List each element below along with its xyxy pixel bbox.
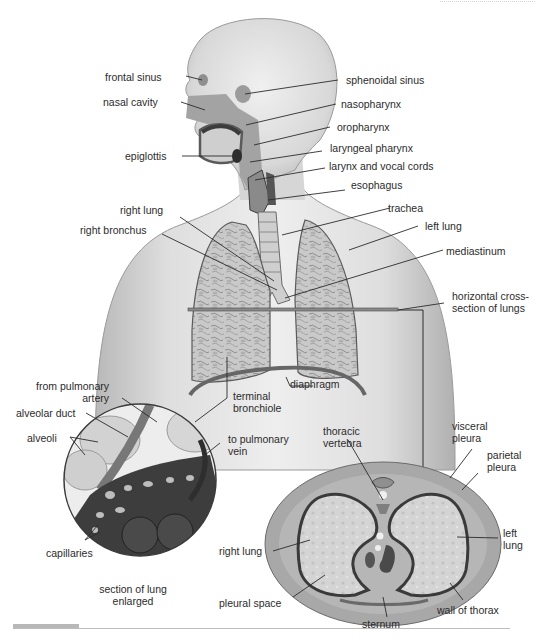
label-parietal-pleura-1: parietal xyxy=(487,449,521,461)
label-trachea: trachea xyxy=(388,202,423,214)
label-nasal-cavity: nasal cavity xyxy=(103,96,158,108)
label-wall-of-thorax: wall of thorax xyxy=(437,604,499,616)
label-capillaries: capillaries xyxy=(46,547,93,559)
top-dotted-rule xyxy=(440,1,535,2)
label-laryngeal-pharynx: laryngeal pharynx xyxy=(330,142,413,154)
label-to-pulmonary-vein-2: vein xyxy=(228,445,247,457)
sphenoidal-sinus-shape xyxy=(235,85,251,103)
label-sphenoidal-sinus: sphenoidal sinus xyxy=(346,74,424,86)
label-to-pulmonary-vein-1: to pulmonary xyxy=(228,433,289,445)
label-alveoli: alveoli xyxy=(27,432,57,444)
label-cs-left-lung-2: lung xyxy=(503,539,523,551)
label-terminal-bronchiole-2: bronchiole xyxy=(233,402,281,414)
label-alveolar-duct: alveolar duct xyxy=(16,407,76,419)
label-diaphragm: diaphragm xyxy=(290,378,340,390)
label-visceral-pleura-2: pleura xyxy=(452,432,481,444)
label-right-bronchus: right bronchus xyxy=(80,224,147,236)
frontal-sinus-shape xyxy=(198,74,208,86)
label-parietal-pleura-2: pleura xyxy=(487,461,516,473)
label-horizontal-cross-section-2: section of lungs xyxy=(452,302,525,314)
footer-rule xyxy=(13,628,510,629)
label-pleural-space: pleural space xyxy=(219,597,281,609)
label-right-lung: right lung xyxy=(120,204,163,216)
label-section-enlarged-1: section of lung xyxy=(83,583,183,595)
respiratory-illustration xyxy=(0,0,541,642)
label-frontal-sinus: frontal sinus xyxy=(105,71,162,83)
label-horizontal-cross-section-1: horizontal cross- xyxy=(452,290,529,302)
label-cs-right-lung: right lung xyxy=(219,545,262,557)
cross-section-bar xyxy=(188,308,398,311)
label-larynx-vocal-cords: larynx and vocal cords xyxy=(329,160,433,172)
label-from-pulmonary-artery-1: from pulmonary xyxy=(36,380,109,392)
label-nasopharynx: nasopharynx xyxy=(341,98,401,110)
label-terminal-bronchiole-1: terminal xyxy=(233,390,270,402)
label-left-lung: left lung xyxy=(425,220,462,232)
label-from-pulmonary-artery-2: artery xyxy=(36,392,109,404)
label-thoracic-vertebra-1: thoracic xyxy=(323,425,360,437)
label-cs-left-lung-1: left xyxy=(503,527,517,539)
label-mediastinum: mediastinum xyxy=(446,245,506,257)
label-epiglottis: epiglottis xyxy=(125,150,166,162)
label-oropharynx: oropharynx xyxy=(337,121,390,133)
label-esophagus: esophagus xyxy=(351,179,402,191)
label-visceral-pleura-1: visceral xyxy=(452,420,488,432)
label-section-enlarged-2: enlarged xyxy=(83,595,183,607)
label-thoracic-vertebra-2: vertebra xyxy=(323,437,362,449)
